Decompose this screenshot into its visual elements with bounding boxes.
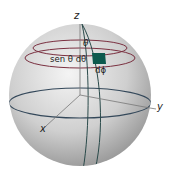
sphere-graphic [0, 0, 174, 172]
z-axis-label: z [74, 11, 79, 21]
theta-label: θ [83, 39, 89, 48]
sen-theta-dtheta-label: sen θ dθ [50, 55, 86, 64]
y-axis-ext [150, 108, 156, 109]
y-axis-label: y [157, 102, 163, 112]
dphi-label: dϕ [95, 66, 106, 75]
x-axis-label: x [40, 124, 46, 134]
surface-element-patch [92, 53, 106, 64]
sphere-diagram: z y x θ sen θ dθ dϕ [0, 0, 174, 172]
